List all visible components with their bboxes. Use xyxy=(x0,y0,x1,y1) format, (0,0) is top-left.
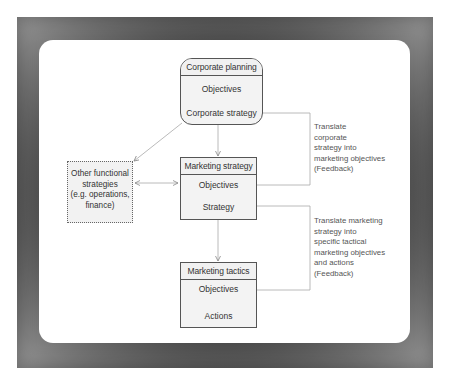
other-functional-strategies-box: Other functional strategies (e.g. operat… xyxy=(67,161,133,223)
feedback-note-1: Translate corporate strategy into market… xyxy=(314,122,385,175)
box-item-strategy: Strategy xyxy=(181,202,256,212)
box-item-objectives: Objectives xyxy=(181,180,256,190)
feedback-note-2: Translate marketing strategy into specif… xyxy=(314,216,385,280)
box-line: Other functional xyxy=(68,169,132,180)
marketing-tactics-box: Marketing tactics Objectives Actions xyxy=(180,262,257,328)
box-line: strategies xyxy=(68,180,132,191)
box-title: Corporate planning xyxy=(181,59,262,76)
box-line: finance) xyxy=(68,201,132,212)
box-item-objectives: Objectives xyxy=(181,84,262,94)
box-title: Marketing tactics xyxy=(181,263,256,280)
box-title: Marketing strategy xyxy=(181,158,256,175)
box-item-objectives: Objectives xyxy=(181,284,256,294)
box-item-actions: Actions xyxy=(181,311,256,321)
corporate-planning-box: Corporate planning Objectives Corporate … xyxy=(180,58,263,125)
arrow-corporate-to-other xyxy=(134,123,182,161)
box-line: (e.g. operations, xyxy=(68,190,132,201)
box-item-corporate-strategy: Corporate strategy xyxy=(181,108,262,118)
marketing-strategy-box: Marketing strategy Objectives Strategy xyxy=(180,157,257,220)
